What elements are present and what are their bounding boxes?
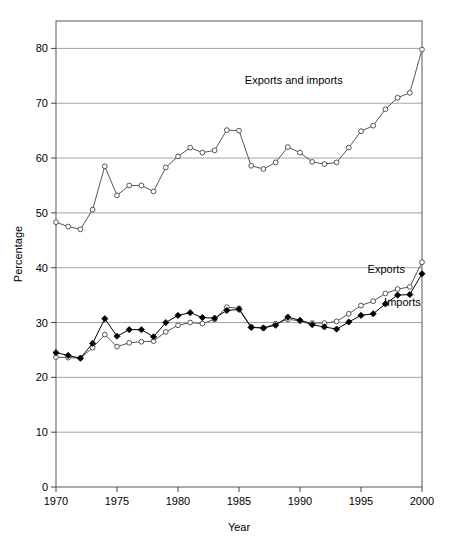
y-tick-label-40: 40 bbox=[36, 262, 48, 274]
data-point-marker bbox=[127, 183, 132, 188]
data-point-marker bbox=[420, 47, 425, 52]
x-axis-label: Year bbox=[228, 521, 251, 533]
x-tick-label-1980: 1980 bbox=[166, 495, 190, 507]
x-tick-label-1995: 1995 bbox=[349, 495, 373, 507]
data-point-marker bbox=[407, 284, 412, 289]
data-point-marker bbox=[371, 123, 376, 128]
y-tick-label-20: 20 bbox=[36, 371, 48, 383]
data-point-marker bbox=[395, 95, 400, 100]
chart-figure: 01020304050607080 1970197519801985199019… bbox=[0, 0, 457, 541]
line-chart: 01020304050607080 1970197519801985199019… bbox=[0, 0, 457, 541]
data-point-marker bbox=[115, 344, 120, 349]
data-point-marker bbox=[334, 160, 339, 165]
data-point-marker bbox=[322, 162, 327, 167]
y-tick-label-50: 50 bbox=[36, 207, 48, 219]
data-point-marker bbox=[139, 183, 144, 188]
data-point-marker bbox=[163, 165, 168, 170]
data-point-marker bbox=[66, 224, 71, 229]
data-point-marker bbox=[127, 340, 132, 345]
data-point-marker bbox=[310, 160, 315, 165]
y-tick-label-80: 80 bbox=[36, 42, 48, 54]
annotation-exports-and-imports: Exports and imports bbox=[245, 74, 343, 86]
data-point-marker bbox=[163, 329, 168, 334]
x-tick-label-1985: 1985 bbox=[227, 495, 251, 507]
data-point-marker bbox=[298, 150, 303, 155]
data-point-marker bbox=[200, 321, 205, 326]
data-point-marker bbox=[395, 287, 400, 292]
data-point-marker bbox=[200, 150, 205, 155]
data-point-marker bbox=[359, 303, 364, 308]
data-point-marker bbox=[115, 193, 120, 198]
y-tick-label-10: 10 bbox=[36, 426, 48, 438]
x-tick-label-1970: 1970 bbox=[44, 495, 68, 507]
x-tick-label-1990: 1990 bbox=[288, 495, 312, 507]
data-point-marker bbox=[261, 167, 266, 172]
data-point-marker bbox=[420, 260, 425, 265]
data-point-marker bbox=[151, 189, 156, 194]
data-point-marker bbox=[54, 220, 59, 225]
annotation-imports: Imports bbox=[384, 296, 421, 308]
annotation-exports: Exports bbox=[368, 263, 406, 275]
data-point-marker bbox=[237, 128, 242, 133]
y-tick-label-60: 60 bbox=[36, 152, 48, 164]
data-point-marker bbox=[407, 90, 412, 95]
data-point-marker bbox=[188, 320, 193, 325]
data-point-marker bbox=[273, 160, 278, 165]
x-tick-label-2000: 2000 bbox=[410, 495, 434, 507]
data-point-marker bbox=[371, 299, 376, 304]
data-point-marker bbox=[176, 323, 181, 328]
data-point-marker bbox=[346, 145, 351, 150]
y-axis-label: Percentage bbox=[12, 226, 24, 282]
data-point-marker bbox=[383, 107, 388, 112]
data-point-marker bbox=[224, 128, 229, 133]
y-tick-label-30: 30 bbox=[36, 317, 48, 329]
data-point-marker bbox=[212, 148, 217, 153]
data-point-marker bbox=[102, 332, 107, 337]
data-point-marker bbox=[359, 129, 364, 134]
data-point-marker bbox=[102, 164, 107, 169]
data-point-marker bbox=[139, 339, 144, 344]
data-point-marker bbox=[249, 163, 254, 168]
data-point-marker bbox=[346, 311, 351, 316]
data-point-marker bbox=[334, 319, 339, 324]
data-point-marker bbox=[176, 154, 181, 159]
data-point-marker bbox=[188, 145, 193, 150]
y-tick-label-70: 70 bbox=[36, 97, 48, 109]
data-point-marker bbox=[285, 145, 290, 150]
x-tick-label-1975: 1975 bbox=[105, 495, 129, 507]
data-point-marker bbox=[90, 207, 95, 212]
y-tick-label-0: 0 bbox=[42, 481, 48, 493]
data-point-marker bbox=[78, 227, 83, 232]
